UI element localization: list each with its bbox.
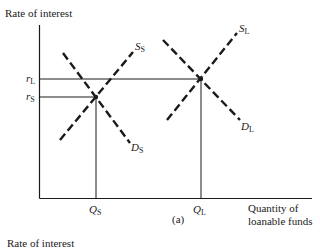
short-equilibrium-point: [94, 95, 98, 99]
r-long-label: rL: [26, 73, 35, 84]
r-short-label: rS: [26, 91, 35, 102]
x-axis-title-line2: loanable funds: [248, 216, 312, 227]
supply-short-label: SS: [135, 41, 145, 52]
demand-long-label: DL: [241, 121, 254, 132]
long-equilibrium-point: [199, 77, 203, 81]
next-panel-y-axis-title: Rate of interest: [7, 238, 74, 249]
panel-label: (a): [172, 214, 184, 225]
supply-long-label: SL: [239, 23, 249, 34]
supply-long-curve: [167, 33, 237, 120]
demand-short-label: DS: [131, 142, 143, 153]
x-axis-title-line1: Quantity of: [248, 203, 298, 214]
q-short-label: QS: [89, 204, 101, 215]
q-long-label: QL: [193, 204, 206, 215]
